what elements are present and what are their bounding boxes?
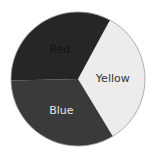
pie-chart: YellowBlueRed <box>0 0 153 157</box>
slice-label-red: Red <box>49 43 70 56</box>
slice-label-blue: Blue <box>49 104 74 117</box>
slice-label-yellow: Yellow <box>95 72 130 85</box>
